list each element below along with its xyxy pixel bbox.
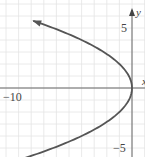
curve-arrow-icon xyxy=(32,20,42,26)
tick-label-neg5: −5 xyxy=(113,141,126,155)
x-axis-label: x xyxy=(141,75,145,87)
tick-label-neg10: −10 xyxy=(3,90,22,104)
tick-label-5: 5 xyxy=(121,21,127,35)
parabola-chart: y x −10 5 −5 xyxy=(0,0,145,157)
y-axis-label: y xyxy=(135,6,141,18)
y-axis-arrow-icon xyxy=(129,8,135,16)
parabola-curve xyxy=(11,21,132,157)
